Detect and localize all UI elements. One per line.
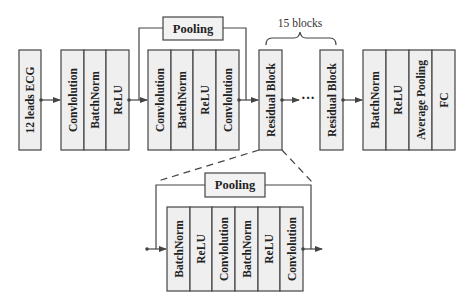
stem-layer-label: ReLU <box>112 85 124 115</box>
head-layer-label: FC <box>438 92 450 107</box>
residual-block-label: Residual Block <box>265 62 277 136</box>
pooling-label: Pooling <box>173 22 214 36</box>
detail-layer-label: BatchNorm <box>173 220 185 278</box>
stem-block: Convlolution BatchNorm ReLU <box>61 50 129 150</box>
head-layer-label: ReLU <box>392 85 404 115</box>
detail-layer-label: BatchNorm <box>241 220 253 278</box>
residual-block-last: Residual Block <box>320 50 343 150</box>
layer-label: Convlolution <box>222 67 234 132</box>
residual-block-first: Residual Block <box>259 50 282 150</box>
stem-layer-label: BatchNorm <box>89 71 101 129</box>
layer-label: ReLU <box>199 85 211 115</box>
residual-detail-block: BatchNorm ReLU Convlolution BatchNorm Re… <box>167 207 303 291</box>
ellipsis: ··· <box>301 91 315 106</box>
detail-pooling-label: Pooling <box>215 178 256 192</box>
input-block: 12 leads ECG <box>19 50 41 150</box>
detail-layer-label: Convlolution <box>218 216 230 281</box>
detail-pooling-box: Pooling <box>205 173 265 197</box>
residual-block-label: Residual Block <box>326 62 338 136</box>
zoom-guide-line <box>282 150 313 183</box>
head-layer-label: Average Pooling <box>415 60 428 140</box>
layer-label: Convlolution <box>154 67 166 132</box>
repeat-count-label: 15 blocks <box>278 17 323 29</box>
layer-label: BatchNorm <box>176 71 188 129</box>
head-block: BatchNorm ReLU Average Pooling FC <box>363 50 455 150</box>
input-label: 12 leads ECG <box>24 66 36 133</box>
detail-layer-label: Convlolution <box>286 216 298 281</box>
first-residual-block: Convlolution BatchNorm ReLU Convlolution <box>148 50 239 150</box>
detail-layer-label: ReLU <box>195 234 207 264</box>
ecg-resnet-architecture-diagram: 12 leads ECG Convlolution BatchNorm ReLU… <box>0 0 472 306</box>
stem-layer-label: Convlolution <box>67 67 79 132</box>
brace <box>266 32 336 45</box>
pooling-shortcut-box: Pooling <box>163 17 223 40</box>
head-layer-label: BatchNorm <box>369 71 381 129</box>
detail-layer-label: ReLU <box>263 234 275 264</box>
